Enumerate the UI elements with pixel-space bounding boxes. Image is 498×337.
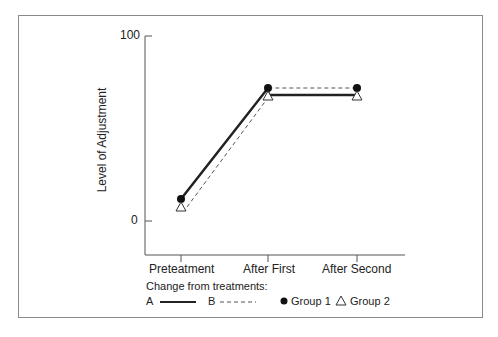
- group2-marker-pre: [176, 202, 186, 211]
- legend-a-label: A: [146, 295, 153, 307]
- legend-group2-label: Group 2: [350, 295, 390, 307]
- line-b-dashed: [187, 88, 357, 207]
- legend-b-label: B: [208, 295, 215, 307]
- x-label-preteatment: Preteatment: [149, 262, 214, 276]
- legend-group1-circle-icon: [281, 298, 288, 305]
- legend-group2-triangle-icon: [336, 296, 346, 305]
- x-label-after-first: After First: [243, 262, 295, 276]
- line-a-solid: [181, 88, 357, 199]
- legend-title: Change from treatments:: [146, 280, 268, 292]
- legend-group1-label: Group 1: [291, 295, 331, 307]
- x-label-after-second: After Second: [322, 262, 391, 276]
- y-axis-title: Level of Adjustment: [95, 88, 109, 193]
- y-tick-label-100: 100: [120, 28, 140, 42]
- y-tick-label-0: 0: [131, 213, 138, 227]
